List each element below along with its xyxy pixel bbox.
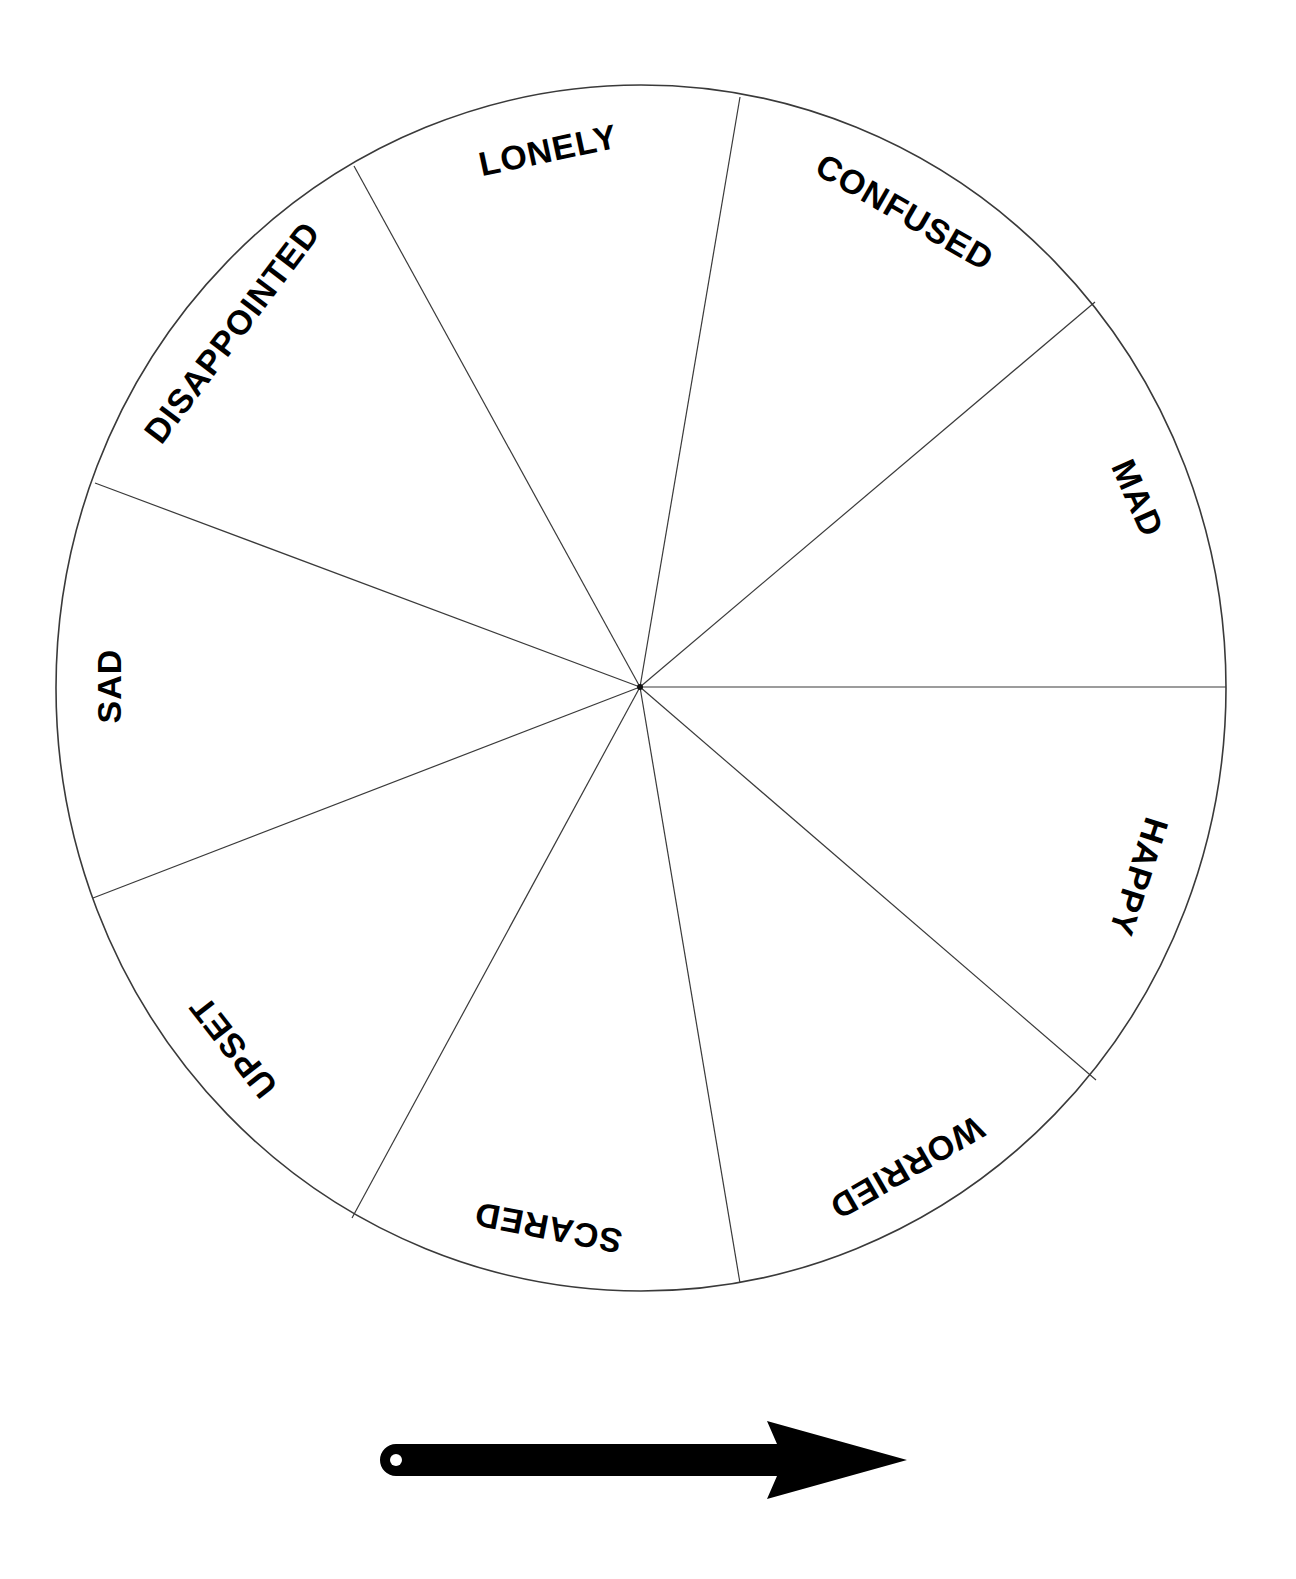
arrow-pivot-hole [390,1454,402,1466]
spinner-arrow-icon[interactable] [380,1421,907,1499]
arrow-body [380,1421,907,1499]
wheel-hub [637,684,643,690]
feelings-wheel-figure: LONELYCONFUSEDMADHAPPYWORRIEDSCAREDUPSET… [0,0,1296,1579]
spinner-wheel[interactable]: LONELYCONFUSEDMADHAPPYWORRIEDSCAREDUPSET… [56,85,1226,1291]
segment-label-sad: SAD [90,649,128,724]
